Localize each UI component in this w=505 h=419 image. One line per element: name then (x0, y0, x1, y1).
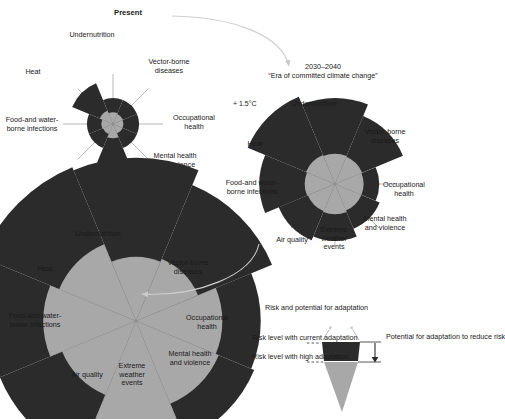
legend-label-high-adaptation: Risk level with high adaptation (252, 353, 310, 362)
arrow-present-to-mid-century (172, 16, 289, 66)
legend-potential-arrow (372, 343, 379, 363)
legend-title: Risk and potential for adaptation (265, 303, 368, 312)
arrow-mid-century-to-late-century (142, 244, 259, 294)
legend-diagram (255, 316, 438, 416)
legend-label-current-adaptation: Risk level with current adaptation (252, 334, 310, 343)
legend-label-potential-for-adaptation: Potential for adaptation to reduce risk (386, 333, 436, 342)
legend-wedge-high-adaptation (324, 362, 358, 412)
